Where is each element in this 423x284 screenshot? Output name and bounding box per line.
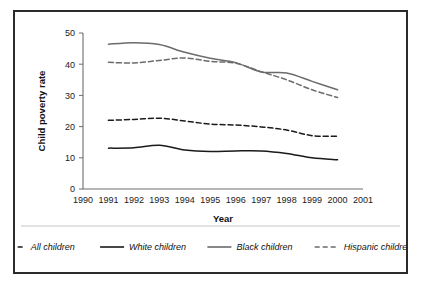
x-tick-label-1993: 1993 [149, 195, 169, 205]
y-tick-label-50: 50 [65, 28, 75, 38]
x-tick-label-1999: 1999 [302, 195, 322, 205]
x-tick-label-1991: 1991 [98, 195, 118, 205]
x-tick-label-1992: 1992 [124, 195, 144, 205]
x-tick-label-1995: 1995 [200, 195, 220, 205]
series-line-black-children[interactable] [108, 43, 337, 90]
x-tick-label-1990: 1990 [73, 195, 93, 205]
chart-area: 0102030405019901991199219931994199519961… [15, 12, 406, 272]
line-chart: 0102030405019901991199219931994199519961… [15, 12, 406, 272]
figure-frame: 0102030405019901991199219931994199519961… [13, 10, 408, 274]
legend-item-white-children[interactable]: White children [100, 242, 186, 252]
legend-label-1: White children [129, 242, 186, 252]
x-tick-label-1996: 1996 [226, 195, 246, 205]
legend-item-black-children[interactable]: Black children [207, 242, 292, 252]
legend-item-hispanic-children[interactable]: Hispanic children [315, 242, 406, 252]
legend-label-2: Black children [236, 242, 292, 252]
x-tick-label-1998: 1998 [277, 195, 297, 205]
y-tick-label-40: 40 [65, 60, 75, 70]
y-tick-label-0: 0 [70, 184, 75, 194]
y-tick-label-20: 20 [65, 122, 75, 132]
legend-label-3: Hispanic children [344, 242, 406, 252]
axis-lines [83, 33, 363, 189]
x-tick-label-2001: 2001 [353, 195, 373, 205]
series-line-all-children[interactable] [108, 118, 337, 136]
x-tick-label-1994: 1994 [175, 195, 195, 205]
y-tick-label-10: 10 [65, 153, 75, 163]
y-tick-label-30: 30 [65, 91, 75, 101]
x-tick-label-2000: 2000 [328, 195, 348, 205]
legend-label-0: All children [30, 242, 75, 252]
y-axis-title: Child poverty rate [36, 71, 47, 152]
x-tick-label-1997: 1997 [251, 195, 271, 205]
series-line-white-children[interactable] [108, 145, 337, 159]
legend-item-all-children[interactable]: All children [15, 242, 75, 252]
x-axis-title: Year [213, 213, 233, 224]
